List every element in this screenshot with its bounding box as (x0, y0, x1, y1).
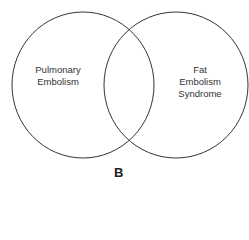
label-line: Embolism (170, 76, 230, 88)
label-line: Syndrome (170, 88, 230, 100)
label-line: Pulmonary (24, 64, 92, 76)
set-label-pulmonary-embolism: Pulmonary Embolism (24, 64, 92, 88)
panel-label: B (114, 165, 123, 180)
label-line: Embolism (24, 76, 92, 88)
set-label-fat-embolism-syndrome: Fat Embolism Syndrome (170, 64, 230, 100)
label-line: Fat (170, 64, 230, 76)
